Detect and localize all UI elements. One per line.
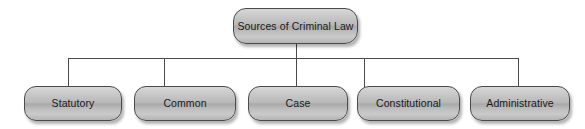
- node-common[interactable]: Common: [134, 86, 236, 121]
- node-constitutional[interactable]: Constitutional: [357, 86, 460, 121]
- node-label: Administrative: [486, 98, 553, 109]
- node-statutory[interactable]: Statutory: [24, 86, 122, 121]
- node-label: Case: [286, 98, 311, 109]
- node-administrative[interactable]: Administrative: [470, 86, 570, 121]
- node-label: Common: [163, 98, 206, 109]
- node-case[interactable]: Case: [248, 86, 348, 121]
- node-label: Sources of Criminal Law: [237, 21, 353, 32]
- node-label: Statutory: [52, 98, 95, 109]
- node-sources-of-criminal-law[interactable]: Sources of Criminal Law: [233, 8, 358, 44]
- node-label: Constitutional: [376, 98, 441, 109]
- diagram-canvas: Sources of Criminal Law Statutory Common…: [0, 0, 585, 129]
